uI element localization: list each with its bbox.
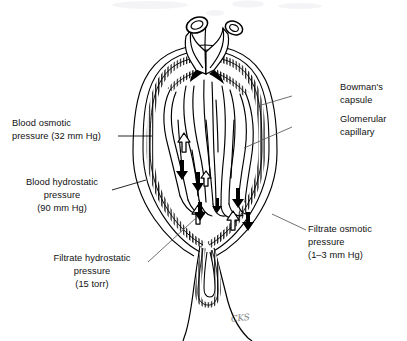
label-blood-hydrostatic-pressure: Blood hydrostatic pressure (90 mm Hg): [8, 176, 116, 216]
leader-filtrate-hydrostatic: [148, 218, 196, 262]
label-filtrate-hydrostatic-pressure: Filtrate hydrostatic pressure (15 torr): [36, 252, 148, 292]
artist-signature: CKS: [231, 312, 250, 324]
label-filtrate-osmotic-pressure: Filtrate osmotic pressure (1–3 mm Hg): [308, 223, 406, 263]
label-glomerular-capillary: Glomerular capillary: [340, 113, 406, 139]
leader-filtrate-osmotic: [272, 214, 306, 230]
label-bowmans-capsule: Bowman's capsule: [340, 81, 406, 107]
leader-blood-hydrostatic: [112, 180, 146, 190]
scan-artifacts: [112, 1, 322, 17]
label-blood-osmotic-pressure: Blood osmotic pressure (32 mm Hg): [12, 117, 124, 143]
